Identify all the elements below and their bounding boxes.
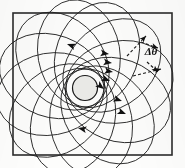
precession-angle-label: Δθ: [144, 45, 158, 57]
orbit-diagram-svg: Δθ: [0, 0, 185, 168]
central-body-icon: [73, 76, 98, 101]
figure-container: Δθ: [0, 0, 185, 168]
